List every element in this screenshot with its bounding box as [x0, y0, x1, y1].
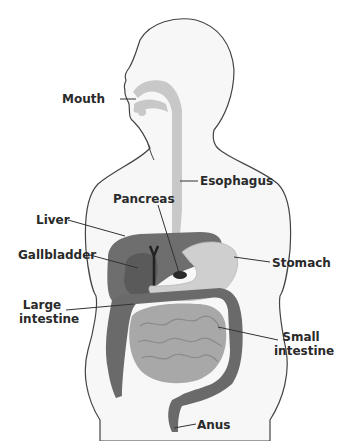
label-stomach: Stomach — [272, 256, 331, 270]
label-pancreas: Pancreas — [113, 192, 175, 206]
label-small-intestine: Small intestine — [274, 330, 328, 358]
label-large-intestine-line1: Large — [19, 298, 65, 312]
digestive-system-diagram: Mouth Esophagus Pancreas Liver Gallbladd… — [0, 0, 341, 441]
label-liver: Liver — [36, 213, 70, 227]
label-large-intestine: Large intestine — [19, 298, 65, 326]
label-gallbladder: Gallbladder — [18, 248, 96, 262]
label-anus: Anus — [197, 418, 231, 432]
label-esophagus: Esophagus — [200, 174, 273, 188]
label-small-intestine-line1: Small — [274, 330, 328, 344]
small-intestine — [129, 304, 226, 384]
label-large-intestine-line2: intestine — [19, 312, 65, 326]
label-mouth: Mouth — [62, 92, 105, 106]
label-small-intestine-line2: intestine — [274, 344, 328, 358]
